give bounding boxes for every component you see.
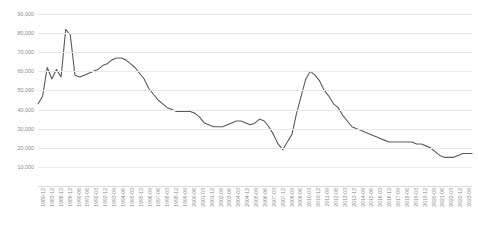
x-tick-label: 2019-12 xyxy=(422,188,428,207)
x-tick-label: 1994-06 xyxy=(120,188,126,207)
x-tick-label: 2010-03 xyxy=(306,188,312,207)
gridline xyxy=(38,71,472,72)
plot-area xyxy=(38,14,472,186)
x-tick-label: 2022-03 xyxy=(448,188,454,207)
y-tick-label: 10,000 xyxy=(18,164,35,170)
x-tick-label: 1989-12 xyxy=(67,188,73,207)
x-tick-label: 2013-12 xyxy=(351,188,357,207)
x-tick-label: 2010-12 xyxy=(315,188,321,207)
x-tick-label: 1992-12 xyxy=(102,188,108,207)
x-tick-label: 1983-12 xyxy=(49,188,55,207)
series-line xyxy=(38,14,472,186)
x-tick-label: 2006-06 xyxy=(262,188,268,207)
x-tick-label: 2002-09 xyxy=(218,188,224,207)
x-tick-label: 2004-03 xyxy=(235,188,241,207)
gridline xyxy=(38,167,472,168)
x-tick-label: 2014-09 xyxy=(360,188,366,207)
x-tick-label: 2000-06 xyxy=(191,188,197,207)
y-tick-label: 30,000 xyxy=(18,126,35,132)
x-tick-label: 2015-06 xyxy=(368,188,374,207)
x-tick-label: 2022-12 xyxy=(457,188,463,207)
x-tick-label: 1980-12 xyxy=(40,188,46,207)
x-tick-label: 2001-12 xyxy=(209,188,215,207)
x-tick-label: 1995-03 xyxy=(129,188,135,207)
x-tick-label: 2004-12 xyxy=(244,188,250,207)
y-tick-label: 70,000 xyxy=(18,49,35,55)
x-tick-label: 2023-09 xyxy=(466,188,472,207)
x-tick-label: 2013-03 xyxy=(342,188,348,207)
x-tick-label: 1986-12 xyxy=(58,188,64,207)
x-tick-label: 1997-06 xyxy=(155,188,161,207)
x-tick-label: 1996-09 xyxy=(147,188,153,207)
x-tick-label: 2012-06 xyxy=(333,188,339,207)
gridline xyxy=(38,14,472,15)
y-tick-label: 90,000 xyxy=(18,11,35,17)
x-tick-label: 2016-12 xyxy=(386,188,392,207)
y-tick-label: 40,000 xyxy=(18,107,35,113)
y-tick-label: 50,000 xyxy=(18,87,35,93)
x-tick-label: 2020-09 xyxy=(431,188,437,207)
gridline xyxy=(38,129,472,130)
x-tick-label: 2021-06 xyxy=(439,188,445,207)
x-tick-label: 2007-03 xyxy=(271,188,277,207)
gridline xyxy=(38,110,472,111)
gridline xyxy=(38,33,472,34)
x-tick-label: 2001-03 xyxy=(200,188,206,207)
x-tick-label: 2003-06 xyxy=(226,188,232,207)
y-tick-label: 80,000 xyxy=(18,30,35,36)
gridline xyxy=(38,148,472,149)
gridline xyxy=(38,90,472,91)
y-tick-label: 20,000 xyxy=(18,145,35,151)
x-tick-label: 1990-06 xyxy=(76,188,82,207)
line-chart: 90,00080,00070,00060,00050,00040,00030,0… xyxy=(0,0,478,241)
x-tick-label: 2016-03 xyxy=(377,188,383,207)
x-tick-label: 2008-09 xyxy=(289,188,295,207)
x-tick-label: 1993-09 xyxy=(111,188,117,207)
x-tick-label: 2005-09 xyxy=(253,188,259,207)
y-tick-label: 60,000 xyxy=(18,68,35,74)
x-tick-label: 1998-12 xyxy=(173,188,179,207)
x-tick-label: 2017-09 xyxy=(395,188,401,207)
gridline xyxy=(38,52,472,53)
x-axis-labels: 1980-121983-121986-121989-121990-061991-… xyxy=(38,188,472,241)
y-axis-labels: 90,00080,00070,00060,00050,00040,00030,0… xyxy=(0,14,34,186)
x-tick-label: 1995-12 xyxy=(138,188,144,207)
x-tick-label: 2019-03 xyxy=(413,188,419,207)
x-tick-label: 1999-09 xyxy=(182,188,188,207)
x-tick-label: 2011-09 xyxy=(324,188,330,206)
x-tick-label: 2009-06 xyxy=(297,188,303,207)
x-tick-label: 1992-03 xyxy=(93,188,99,207)
x-tick-label: 1991-06 xyxy=(84,188,90,207)
x-tick-label: 2007-12 xyxy=(280,188,286,207)
x-tick-label: 1998-03 xyxy=(164,188,170,207)
x-tick-label: 2018-06 xyxy=(404,188,410,207)
